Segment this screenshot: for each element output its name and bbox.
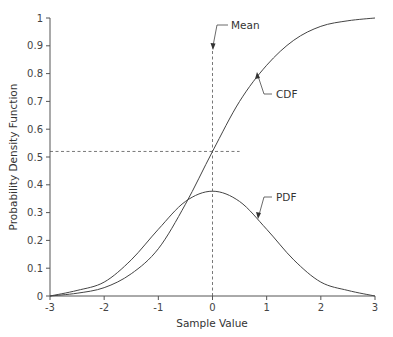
mean-annotation: Mean xyxy=(211,19,260,50)
y-axis-title: Probability Density Function xyxy=(7,84,19,231)
y-tick-label: 0 xyxy=(37,291,43,302)
cdf-label: CDF xyxy=(276,88,297,100)
cdf-pdf-chart: 00.10.20.30.40.50.60.70.80.91 -3-2-10123… xyxy=(0,0,393,337)
pdf-annotation: PDF xyxy=(256,191,296,219)
x-tick-label: 2 xyxy=(318,302,324,313)
y-tick-label: 0.3 xyxy=(27,207,43,218)
y-tick-label: 0.1 xyxy=(27,263,43,274)
x-tick-label: 1 xyxy=(263,302,269,313)
x-tick-label: -3 xyxy=(45,302,55,313)
y-tick-label: 0.8 xyxy=(27,68,43,79)
pdf-label: PDF xyxy=(276,191,296,203)
arrow-head-icon xyxy=(211,43,216,50)
x-tick-label: -2 xyxy=(99,302,109,313)
y-tick-label: 0.5 xyxy=(27,152,43,163)
x-tick-label: 0 xyxy=(209,302,215,313)
x-axis-title: Sample Value xyxy=(176,317,248,329)
y-tick-label: 0.6 xyxy=(27,124,43,135)
arrow-head-icon xyxy=(255,72,260,79)
x-ticks: -3-2-10123 xyxy=(45,296,378,313)
x-tick-label: -1 xyxy=(153,302,163,313)
mean-label: Mean xyxy=(231,19,260,31)
y-tick-label: 0.2 xyxy=(27,235,43,246)
cdf-annotation: CDF xyxy=(255,72,297,100)
y-tick-label: 1 xyxy=(37,13,43,24)
reference-lines xyxy=(50,46,240,296)
axes: 00.10.20.30.40.50.60.70.80.91 -3-2-10123 xyxy=(27,13,378,314)
y-tick-label: 0.7 xyxy=(27,96,43,107)
y-ticks: 00.10.20.30.40.50.60.70.80.91 xyxy=(27,13,50,302)
x-tick-label: 3 xyxy=(372,302,378,313)
y-tick-label: 0.4 xyxy=(27,179,43,190)
y-tick-label: 0.9 xyxy=(27,40,43,51)
